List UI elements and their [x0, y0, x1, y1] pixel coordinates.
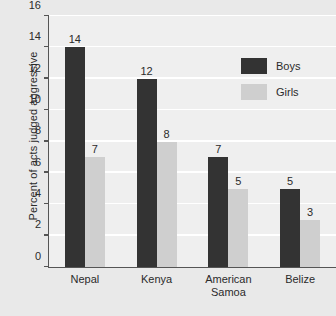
x-axis-category-label-line: Belize	[285, 273, 315, 286]
bar-boys-nepal: 14	[65, 47, 85, 267]
legend-label: Boys	[276, 60, 300, 72]
y-axis-tick-mark	[44, 234, 49, 236]
bar-value-label: 7	[215, 143, 221, 155]
chart-legend: BoysGirls	[241, 53, 300, 105]
x-axis-category-label: AmericanSamoa	[205, 273, 251, 299]
legend-item-girls: Girls	[241, 79, 300, 105]
y-axis-tick-mark	[44, 77, 49, 79]
bar-girls-kenya: 8	[157, 142, 177, 268]
bar-girls-nepal: 7	[85, 157, 105, 267]
x-axis-category-label-line: Samoa	[205, 286, 251, 299]
bar-girls-belize: 3	[300, 220, 320, 267]
y-axis-tick-mark	[44, 203, 49, 205]
y-axis-tick-mark	[44, 15, 49, 17]
y-axis-tick-label: 16	[29, 0, 41, 11]
bar-boys-belize: 5	[280, 189, 300, 267]
y-axis-tick-label: 4	[35, 187, 41, 199]
legend-item-boys: Boys	[241, 53, 300, 79]
y-axis-tick-label: 0	[35, 250, 41, 262]
legend-swatch-girls	[241, 84, 267, 100]
bar-value-label: 8	[164, 128, 170, 140]
bar-girls-american-samoa: 5	[228, 189, 248, 267]
bar-boys-kenya: 12	[137, 79, 157, 267]
y-axis-tick-label: 10	[29, 93, 41, 105]
x-axis-category-label-line: American	[205, 273, 251, 286]
bar-value-label: 3	[307, 206, 313, 218]
y-axis-tick-label: 12	[29, 62, 41, 74]
y-axis-tick-label: 14	[29, 30, 41, 42]
y-axis-tick-label: 6	[35, 156, 41, 168]
y-axis-tick-mark	[44, 266, 49, 268]
bar-value-label: 14	[69, 33, 81, 45]
bar-group: 147	[65, 16, 105, 267]
y-axis-tick-mark	[44, 140, 49, 142]
bar-value-label: 12	[141, 65, 153, 77]
legend-swatch-boys	[241, 58, 267, 74]
x-axis-category-label: Kenya	[141, 273, 172, 286]
x-axis-category-label: Belize	[285, 273, 315, 286]
bar-group: 128	[137, 16, 177, 267]
bar-value-label: 7	[92, 143, 98, 155]
legend-label: Girls	[276, 86, 299, 98]
y-axis-tick-label: 8	[35, 124, 41, 136]
y-axis-tick-mark	[44, 46, 49, 48]
bar-boys-american-samoa: 7	[208, 157, 228, 267]
y-axis-tick-mark	[44, 109, 49, 111]
y-axis-tick-mark	[44, 171, 49, 173]
bar-value-label: 5	[287, 175, 293, 187]
x-axis-category-label: Nepal	[71, 273, 100, 286]
bar-chart-figure: Percent of acts judged aggressive 024681…	[0, 0, 336, 316]
y-axis-tick-label: 2	[35, 218, 41, 230]
bar-value-label: 5	[235, 175, 241, 187]
x-axis-category-label-line: Nepal	[71, 273, 100, 286]
x-axis-category-label-line: Kenya	[141, 273, 172, 286]
